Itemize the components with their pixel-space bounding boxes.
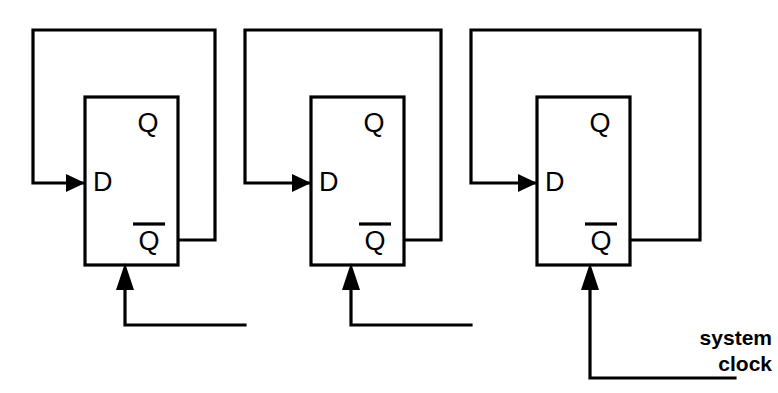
stage-1-clock-arrowhead (116, 263, 134, 290)
stage-3-clock-arrowhead (581, 263, 599, 290)
stage-1-clock-wire (125, 290, 245, 325)
stage-2-clock-wire (351, 290, 471, 325)
stage-2-d-input-arrowhead (292, 174, 311, 192)
stage-1-d-input-arrowhead (66, 174, 85, 192)
stage-1-group: D Q Q (33, 30, 245, 325)
stage-2-clock-arrowhead (342, 263, 360, 290)
stage-3-qbar-label: Q (590, 226, 611, 256)
stage-1-d-label: D (93, 167, 113, 197)
stage-2-group: D Q Q (245, 30, 471, 325)
stage-2-qbar-label: Q (364, 226, 385, 256)
circuit-canvas: D Q Q D Q Q D Q (0, 0, 778, 393)
stage-1-qbar-label: Q (138, 226, 159, 256)
stage-3-d-input-arrowhead (518, 174, 537, 192)
stage-2-q-label: Q (363, 108, 384, 138)
stage-3-d-label: D (545, 167, 565, 197)
circuit-diagram: D Q Q D Q Q D Q (0, 0, 778, 393)
stage-3-q-label: Q (589, 108, 610, 138)
stage-2-d-label: D (319, 167, 339, 197)
system-clock-label-line2: clock (718, 352, 772, 375)
system-clock-label-line1: system (700, 326, 772, 349)
stage-1-q-label: Q (137, 108, 158, 138)
stage-3-group: D Q Q (471, 30, 700, 265)
system-clock-net: system clock (581, 263, 772, 378)
